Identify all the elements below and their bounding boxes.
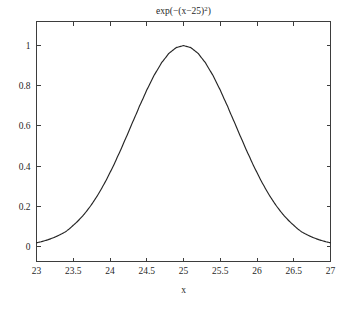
plot-title: exp(−(x−25)2) xyxy=(156,5,211,17)
y-tick-label: 0.8 xyxy=(19,81,31,91)
gaussian-plot: 2323.52424.52525.52626.527 00.20.40.60.8… xyxy=(0,0,353,310)
data-curve xyxy=(37,46,331,243)
y-tick-label: 0 xyxy=(26,242,31,252)
figure-canvas: 2323.52424.52525.52626.527 00.20.40.60.8… xyxy=(0,0,353,310)
y-tick-label: 0.6 xyxy=(19,121,31,131)
y-tick-label: 0.4 xyxy=(19,162,31,172)
x-axis-tick-labels: 2323.52424.52525.52626.527 xyxy=(32,266,336,276)
y-axis-tick-marks xyxy=(37,46,331,247)
x-tick-label: 23 xyxy=(32,266,42,276)
x-tick-label: 23.5 xyxy=(65,266,82,276)
y-tick-label: 1 xyxy=(26,41,31,51)
x-tick-label: 25.5 xyxy=(212,266,229,276)
x-tick-label: 26 xyxy=(252,266,262,276)
x-tick-label: 24 xyxy=(105,266,115,276)
y-tick-label: 0.2 xyxy=(19,202,31,212)
x-tick-label: 26.5 xyxy=(285,266,302,276)
x-axis-title: x xyxy=(181,285,186,295)
y-axis-tick-labels: 00.20.40.60.81 xyxy=(19,41,31,252)
plot-frame xyxy=(37,22,331,262)
x-tick-label: 27 xyxy=(326,266,336,276)
x-axis-tick-marks xyxy=(37,22,331,262)
x-tick-label: 24.5 xyxy=(138,266,155,276)
x-tick-label: 25 xyxy=(179,266,189,276)
